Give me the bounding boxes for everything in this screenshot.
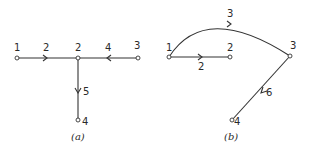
- arrow-right-icon: [227, 21, 231, 27]
- caption-a: (a): [71, 131, 85, 142]
- node-label-b-3: 3: [290, 40, 296, 51]
- panel-a: 1 2 3 4 2 4 5 (a): [14, 40, 140, 142]
- node-label-b-2: 2: [227, 42, 233, 53]
- node-b-3: [288, 54, 292, 58]
- node-b-1: [167, 55, 171, 59]
- node-a-4: [76, 118, 80, 122]
- node-a-2: [76, 56, 80, 60]
- edge-label-a-2-4: 5: [83, 86, 89, 97]
- edge-label-b-1-2: 2: [198, 61, 204, 72]
- node-label-b-4: 4: [234, 116, 240, 127]
- node-label-a-3: 3: [134, 40, 140, 51]
- edge-label-b-3-4: 6: [266, 87, 272, 98]
- node-label-a-4: 4: [82, 116, 88, 127]
- node-b-2: [228, 55, 232, 59]
- node-label-b-1: 1: [166, 42, 172, 53]
- edge-label-a-1-2: 2: [43, 42, 49, 53]
- node-label-a-2: 2: [75, 42, 81, 53]
- node-a-1: [15, 56, 19, 60]
- edge-label-b-1-3: 3: [227, 8, 233, 19]
- panel-b: 1 2 3 4 2 3 6 (b): [166, 8, 296, 142]
- graph-figure: 1 2 3 4 2 4 5 (a) 1 2 3 4 2 3 6 (b): [0, 0, 309, 150]
- edge-label-a-3-2: 4: [105, 42, 111, 53]
- edge-b-3-4: [232, 56, 290, 120]
- node-a-3: [136, 56, 140, 60]
- node-label-a-1: 1: [14, 42, 20, 53]
- caption-b: (b): [224, 131, 238, 142]
